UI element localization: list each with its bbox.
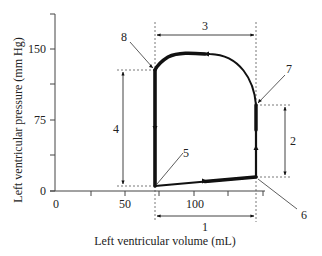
x-axis-label: Left ventricular volume (mL) bbox=[94, 234, 236, 248]
y-axis: 150 75 0 Left ventricular pressure (mm H… bbox=[11, 14, 55, 203]
callout-labels: 3 1 4 2 8 7 5 6 bbox=[113, 19, 307, 234]
leader-7 bbox=[258, 75, 285, 103]
callout-7: 7 bbox=[286, 62, 292, 76]
pv-loop bbox=[155, 53, 256, 186]
callout-6: 6 bbox=[301, 208, 307, 222]
y-tick-75: 75 bbox=[34, 113, 46, 127]
leader-5 bbox=[157, 153, 183, 184]
x-tick-0: 0 bbox=[53, 197, 59, 211]
x-tick-100: 100 bbox=[186, 197, 204, 211]
leader-8 bbox=[130, 42, 153, 68]
y-axis-label: Left ventricular pressure (mm Hg) bbox=[11, 37, 25, 202]
callout-2: 2 bbox=[290, 134, 296, 148]
callout-4: 4 bbox=[113, 122, 119, 136]
callout-1: 1 bbox=[202, 220, 208, 234]
callout-3: 3 bbox=[202, 19, 208, 33]
y-tick-150: 150 bbox=[28, 42, 46, 56]
loop-direction-arrows bbox=[153, 52, 259, 184]
pv-loop-diagram: 150 75 0 Left ventricular pressure (mm H… bbox=[0, 0, 322, 256]
y-tick-0: 0 bbox=[40, 184, 46, 198]
callout-5: 5 bbox=[183, 146, 189, 160]
callout-8: 8 bbox=[121, 30, 127, 44]
guide-lines bbox=[117, 22, 292, 222]
x-tick-50: 50 bbox=[119, 197, 131, 211]
leader-6 bbox=[258, 179, 297, 209]
x-axis: 0 50 100 Left ventricular volume (mL) bbox=[50, 191, 265, 248]
